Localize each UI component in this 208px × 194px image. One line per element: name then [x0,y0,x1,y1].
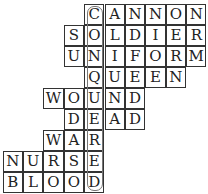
letter-cell: O [145,46,165,67]
letter-cell: N [84,46,104,67]
letter-cell: F [125,46,145,67]
letter-cell: U [105,67,125,88]
letter-cell: R [84,130,104,151]
letter-cell: D [125,88,145,109]
letter-cell: I [145,25,165,46]
letter-cell: W [43,88,63,109]
letter-cell: N [186,4,206,25]
letter-cell: N [145,4,165,25]
letter-cell: A [105,109,125,130]
letter-cell: N [3,151,23,172]
letter-cell: R [186,25,206,46]
crossword-grid: CANNONSOLDIERUNIFORMQUEENWOUNDDEADWARNUR… [0,0,208,194]
letter-cell: I [105,46,125,67]
letter-cell: C [84,4,104,25]
letter-cell: E [84,151,104,172]
letter-cell: L [105,25,125,46]
letter-cell: U [23,151,43,172]
letter-cell: O [166,4,186,25]
letter-cell: S [64,25,84,46]
letter-cell: O [64,88,84,109]
letter-cell: L [23,172,43,193]
letter-cell: E [84,109,104,130]
letter-cell: M [186,46,206,67]
letter-cell: D [64,109,84,130]
letter-cell: O [84,25,104,46]
letter-cell: R [166,46,186,67]
letter-cell: N [125,4,145,25]
letter-cell: A [105,4,125,25]
letter-cell: D [84,172,104,193]
letter-cell: E [166,25,186,46]
letter-cell: D [125,109,145,130]
letter-cell: W [43,130,63,151]
letter-cell: D [125,25,145,46]
letter-cell: E [145,67,165,88]
letter-cell: O [43,172,63,193]
letter-cell: B [3,172,23,193]
letter-cell: R [43,151,63,172]
letter-cell: U [64,46,84,67]
letter-cell: E [125,67,145,88]
letter-cell: U [84,88,104,109]
letter-cell: N [105,88,125,109]
letter-cell: S [64,151,84,172]
letter-cell: Q [84,67,104,88]
letter-cell: N [166,67,186,88]
letter-cell: A [64,130,84,151]
letter-cell: O [64,172,84,193]
